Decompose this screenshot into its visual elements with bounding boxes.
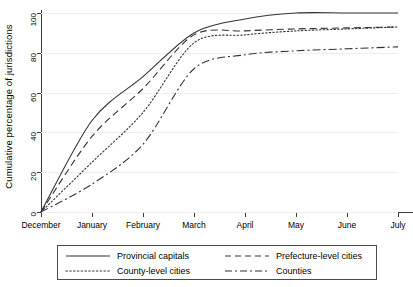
series-line-county-level-cities [41,27,398,212]
x-tick-label-december: December [21,220,60,230]
y-axis-title: Cumulative percentage of jurisdictions [0,0,16,212]
legend-item-county-level-cities: County-level cities [64,263,219,278]
x-tick-mark-may [296,213,297,217]
legend-item-counties: Counties [223,263,373,278]
legend-label: Prefecture-level cities [276,251,362,261]
y-tick-label-60: 60 [14,87,36,99]
x-tick-label-january: January [77,220,107,230]
gridline-0 [41,212,398,213]
dotted-line-icon [64,266,112,276]
chart-legend: Provincial capitals Prefecture-level cit… [57,245,377,280]
legend-label: County-level cities [117,266,190,276]
chart-figure: Cumulative percentage of jurisdictions 0… [0,0,413,287]
y-tick-label-100: 100 [14,7,36,19]
dash-dot-line-icon [223,266,271,276]
x-tick-mark-july [398,213,399,217]
x-tick-mark-march [194,213,195,217]
y-tick-label-40: 40 [14,126,36,138]
series-line-prefecture-level-cities [41,27,398,212]
y-tick-label-20: 20 [14,166,36,178]
x-tick-label-february: February [126,220,160,230]
x-tick-label-may: May [288,220,304,230]
series-line-counties [41,47,398,212]
x-tick-label-july: July [390,220,405,230]
y-tick-label-0: 0 [14,206,36,218]
x-tick-mark-april [245,213,246,217]
legend-label: Counties [276,266,312,276]
plot-area [41,10,398,212]
series-line-provincial-capitals [41,13,398,212]
series-lines [41,10,398,212]
x-tick-label-march: March [182,220,206,230]
legend-item-provincial-capitals: Provincial capitals [64,248,219,263]
y-axis-title-text: Cumulative percentage of jurisdictions [3,24,14,188]
x-tick-mark-june [347,213,348,217]
legend-item-prefecture-level-cities: Prefecture-level cities [223,248,373,263]
y-tick-label-80: 80 [14,47,36,59]
x-tick-mark-february [143,213,144,217]
x-tick-label-june: June [338,220,356,230]
x-tick-mark-january [92,213,93,217]
dashed-line-icon [223,251,271,261]
x-tick-label-april: April [236,220,253,230]
solid-line-icon [64,251,112,261]
x-tick-mark-december [41,213,42,217]
legend-label: Provincial capitals [117,251,189,261]
